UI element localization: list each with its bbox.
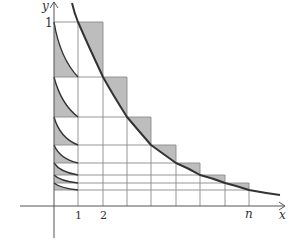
y-tick-label-1: 1 — [45, 16, 53, 30]
x-tick-label-2: 2 — [100, 209, 107, 222]
diagram-canvas: y 1 1 2 n x — [0, 0, 303, 247]
y-axis-label: y — [41, 0, 49, 13]
right-shaded-regions — [78, 22, 249, 190]
x-tick-label-1: 1 — [75, 209, 82, 222]
left-shaded-pieces — [54, 22, 78, 190]
x-axis-label: x — [279, 208, 286, 222]
axes — [20, 2, 285, 238]
x-tick-label-n: n — [245, 207, 253, 221]
